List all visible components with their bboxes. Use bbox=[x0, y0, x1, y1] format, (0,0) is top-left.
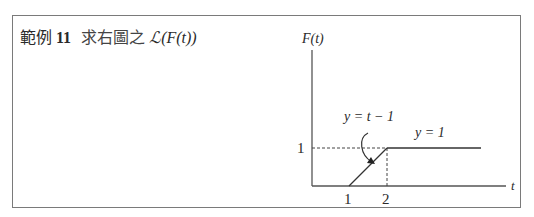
x-axis-label: t bbox=[511, 178, 515, 193]
ramp-segment bbox=[349, 148, 387, 186]
tick-x2: 2 bbox=[382, 191, 390, 207]
tick-y1: 1 bbox=[297, 140, 305, 156]
y-axis-label: F(t) bbox=[301, 31, 324, 47]
ramp-label: y = t − 1 bbox=[342, 109, 394, 124]
piecewise-graph: F(t) t 1 2 1 y = t − 1 y = 1 bbox=[0, 0, 534, 217]
flat-label: y = 1 bbox=[413, 125, 445, 140]
tick-x1: 1 bbox=[344, 191, 352, 207]
